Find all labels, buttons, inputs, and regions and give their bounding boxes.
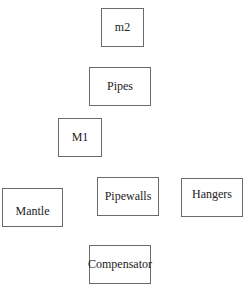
node-m2: m2 — [101, 8, 144, 47]
node-pipewalls: Pipewalls — [97, 177, 159, 216]
node-compensator: Compensator — [89, 245, 151, 284]
node-m1: M1 — [58, 118, 102, 157]
node-label: Pipes — [107, 79, 133, 94]
node-label: M1 — [72, 130, 89, 145]
node-label: Hangers — [192, 187, 232, 202]
node-label: m2 — [115, 20, 130, 35]
node-pipes: Pipes — [89, 67, 151, 106]
node-label: Pipewalls — [105, 189, 152, 204]
node-hangers: Hangers — [181, 178, 243, 217]
node-label: Mantle — [16, 204, 50, 219]
node-mantle: Mantle — [2, 188, 63, 227]
node-label: Compensator — [88, 257, 152, 272]
